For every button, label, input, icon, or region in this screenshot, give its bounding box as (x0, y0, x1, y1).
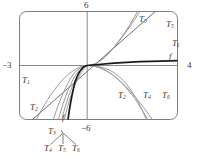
curve-label-T1-left: T1 (22, 76, 30, 86)
curve-label-T6-right: T6 (162, 91, 170, 101)
taylor-polynomial-graph: 6 −3 4 −6 T3 T5 T1 f T1 T2 T2 T4 T6 f T3… (0, 0, 197, 158)
curve-f (65, 61, 178, 150)
curve-label-T4-right: T4 (143, 91, 151, 101)
curve-label-T2-left: T2 (30, 103, 38, 113)
curve-label-T2-right: T2 (118, 91, 126, 101)
axis-label-top: 6 (84, 1, 89, 10)
curve-label-T4-bottom: T4 (44, 144, 52, 154)
curve-label-T3-bottom: T3 (48, 127, 56, 137)
curve-T2 (25, 66, 148, 147)
curve-label-T1-right: T1 (172, 39, 180, 49)
axis-label-bottom: −6 (81, 124, 91, 133)
curve-label-T6-bottom: T6 (72, 144, 80, 154)
curve-label-T5-top: T5 (166, 20, 174, 30)
curve-label-T3-top: T3 (139, 15, 147, 25)
axis-label-left: −3 (2, 61, 12, 70)
curve-T4 (52, 66, 152, 147)
curve-T3 (46, 3, 142, 146)
curve-label-f-right: f (169, 52, 172, 61)
curve-label-T5-bottom: T5 (58, 144, 66, 154)
curve-label-f-bottom: f (62, 113, 65, 122)
axis-label-right: 4 (187, 61, 192, 70)
